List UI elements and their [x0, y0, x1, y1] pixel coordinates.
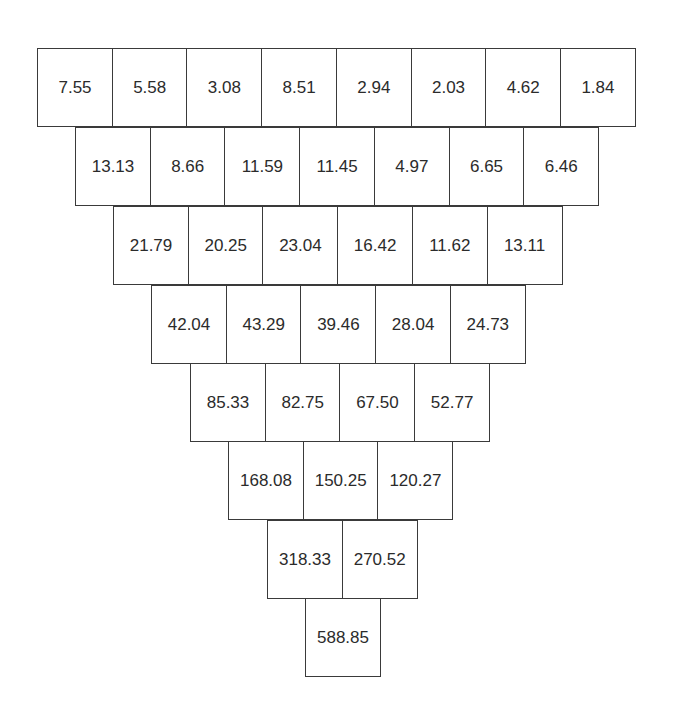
- pyramid-cell: 21.79: [113, 206, 189, 285]
- number-pyramid: 7.55 5.58 3.08 8.51 2.94 2.03 4.62 1.84 …: [0, 0, 682, 709]
- pyramid-cell: 85.33: [190, 363, 266, 442]
- pyramid-cell: 13.13: [75, 127, 151, 206]
- pyramid-cell: 23.04: [262, 206, 338, 285]
- pyramid-cell: 16.42: [337, 206, 413, 285]
- pyramid-cell: 270.52: [342, 520, 418, 599]
- pyramid-cell: 5.58: [112, 48, 188, 127]
- pyramid-cell: 11.45: [299, 127, 375, 206]
- pyramid-cell: 2.94: [336, 48, 412, 127]
- pyramid-cell: 150.25: [303, 441, 379, 520]
- pyramid-cell: 8.66: [150, 127, 226, 206]
- pyramid-cell: 2.03: [411, 48, 487, 127]
- pyramid-cell: 8.51: [261, 48, 337, 127]
- pyramid-cell: 13.11: [487, 206, 563, 285]
- pyramid-row-5: 85.33 82.75 67.50 52.77: [190, 363, 490, 442]
- pyramid-cell: 52.77: [414, 363, 490, 442]
- pyramid-cell: 168.08: [228, 441, 304, 520]
- pyramid-cell: 24.73: [450, 285, 526, 364]
- pyramid-cell: 6.46: [523, 127, 599, 206]
- pyramid-row-2: 13.13 8.66 11.59 11.45 4.97 6.65 6.46: [75, 127, 599, 206]
- pyramid-row-3: 21.79 20.25 23.04 16.42 11.62 13.11: [113, 206, 563, 285]
- pyramid-cell: 4.97: [374, 127, 450, 206]
- pyramid-cell: 82.75: [265, 363, 341, 442]
- pyramid-row-6: 168.08 150.25 120.27: [228, 441, 453, 520]
- pyramid-cell: 4.62: [485, 48, 561, 127]
- pyramid-cell: 3.08: [186, 48, 262, 127]
- pyramid-row-1: 7.55 5.58 3.08 8.51 2.94 2.03 4.62 1.84: [37, 48, 636, 127]
- pyramid-cell: 6.65: [449, 127, 525, 206]
- pyramid-cell: 120.27: [377, 441, 453, 520]
- pyramid-cell: 67.50: [339, 363, 415, 442]
- pyramid-cell: 11.59: [224, 127, 300, 206]
- pyramid-cell: 28.04: [375, 285, 451, 364]
- pyramid-cell: 42.04: [151, 285, 227, 364]
- pyramid-cell: 318.33: [267, 520, 343, 599]
- pyramid-cell: 43.29: [226, 285, 302, 364]
- pyramid-cell: 11.62: [412, 206, 488, 285]
- pyramid-apex-cell: 588.85: [305, 598, 381, 677]
- pyramid-cell: 7.55: [37, 48, 113, 127]
- pyramid-row-4: 42.04 43.29 39.46 28.04 24.73: [151, 285, 526, 364]
- pyramid-cell: 20.25: [188, 206, 264, 285]
- pyramid-row-7: 318.33 270.52: [267, 520, 418, 599]
- pyramid-cell: 1.84: [560, 48, 636, 127]
- pyramid-row-8: 588.85: [305, 598, 381, 677]
- pyramid-cell: 39.46: [300, 285, 376, 364]
